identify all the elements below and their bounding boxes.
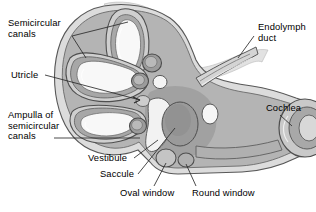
label-line: Oval window bbox=[120, 188, 174, 199]
label-endolymph-duct: Endolymph duct bbox=[258, 22, 306, 43]
label-cochlea: Cochlea bbox=[266, 103, 301, 114]
saccule-shading bbox=[165, 104, 191, 136]
inner-ear-diagram: Semicircular canals Utricle Ampulla of s… bbox=[0, 0, 316, 212]
label-semicircular-canals: Semicircular canals bbox=[8, 18, 61, 39]
label-line: Utricle bbox=[11, 70, 38, 81]
vestibular-opening bbox=[202, 104, 218, 124]
label-utricle: Utricle bbox=[11, 70, 38, 81]
label-line: Round window bbox=[192, 188, 255, 199]
label-line: duct bbox=[258, 33, 306, 44]
label-line: Cochlea bbox=[266, 103, 301, 114]
label-round-window: Round window bbox=[192, 188, 255, 199]
label-line: Endolymph bbox=[258, 22, 306, 33]
ampulla-accessory-opening bbox=[153, 75, 167, 88]
label-saccule: Saccule bbox=[100, 169, 134, 180]
ampulla-lateral-core bbox=[134, 75, 145, 85]
oval-window-opening bbox=[156, 149, 176, 167]
label-oval-window: Oval window bbox=[120, 188, 174, 199]
label-line: Vestibule bbox=[88, 153, 127, 164]
cochlea-spiral-inner bbox=[299, 115, 316, 141]
label-vestibule: Vestibule bbox=[88, 153, 127, 164]
ampulla-superior-core bbox=[145, 56, 157, 67]
label-line: Semicircular bbox=[8, 18, 61, 29]
label-line: canals bbox=[8, 29, 61, 40]
ampulla-posterior-core bbox=[132, 120, 143, 130]
label-ampulla-of-semicircular-canals: Ampulla of semicircular canals bbox=[8, 110, 59, 142]
label-line: Saccule bbox=[100, 169, 134, 180]
label-line: canals bbox=[8, 131, 59, 142]
label-line: Ampulla of bbox=[8, 110, 59, 121]
